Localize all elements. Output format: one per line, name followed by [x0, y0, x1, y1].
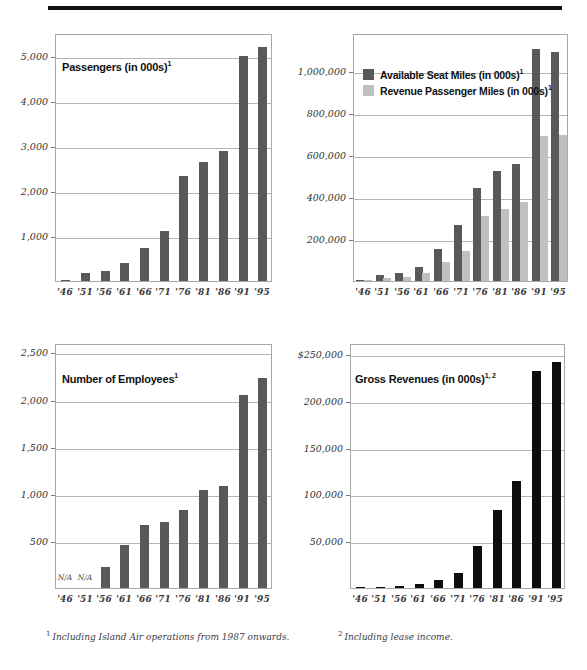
bar-revenue-passenger-miles-in-000s--61 — [422, 273, 430, 281]
y-tick-mark — [349, 240, 353, 241]
y-tick-mark — [51, 401, 55, 402]
bar-71 — [160, 231, 169, 281]
bar-available-seat-miles-in-000s--86 — [512, 164, 520, 281]
bar-91 — [239, 395, 248, 588]
gridline — [351, 356, 564, 357]
bar-95 — [258, 378, 267, 588]
bar-66 — [140, 525, 149, 588]
chart-title-passengers: Passengers (in 000s)1 — [62, 60, 171, 73]
bar-51 — [81, 273, 90, 281]
bar-95 — [552, 362, 561, 588]
bar-76 — [179, 510, 188, 588]
legend-swatch-icon — [363, 85, 374, 96]
chart-panel-gross-revenues: 50,000100,000150,000200,000$250,000'46'5… — [293, 330, 587, 630]
bar-revenue-passenger-miles-in-000s--71 — [462, 251, 470, 281]
y-axis-label: 1,000,000 — [293, 67, 346, 77]
bar-86 — [219, 486, 228, 588]
bar-revenue-passenger-miles-in-000s--51 — [383, 278, 391, 281]
bar-available-seat-miles-in-000s--76 — [473, 188, 481, 281]
chart-panel-employees: 5001,0001,5002,0002,500N/A'46N/A'51'56'6… — [0, 330, 293, 630]
bar-revenue-passenger-miles-in-000s--86 — [520, 202, 528, 281]
y-tick-mark — [51, 542, 55, 543]
gridline — [56, 354, 271, 355]
bar-revenue-passenger-miles-in-000s--81 — [501, 209, 509, 281]
y-tick-mark — [51, 147, 55, 148]
bar-95 — [258, 47, 267, 281]
bar-56 — [395, 586, 404, 588]
bar-61 — [415, 584, 424, 588]
y-axis-label: 400,000 — [293, 193, 346, 203]
footnote-two-marker: 2 — [338, 630, 342, 638]
bar-81 — [199, 490, 208, 588]
y-tick-mark — [51, 353, 55, 354]
footnote-one: 1Including Island Air operations from 19… — [46, 630, 289, 642]
y-tick-mark — [51, 448, 55, 449]
y-tick-mark — [51, 57, 55, 58]
bar-available-seat-miles-in-000s--46 — [356, 280, 364, 281]
bar-revenue-passenger-miles-in-000s--66 — [442, 262, 450, 281]
legend-seat-miles: Available Seat Miles (in 000s)1Revenue P… — [363, 68, 552, 100]
y-tick-mark — [349, 72, 353, 73]
y-axis-label: 2,000 — [0, 396, 48, 406]
chart-title-employees: Number of Employees1 — [62, 372, 178, 385]
y-axis-label: 1,000 — [0, 490, 48, 500]
y-tick-mark — [51, 192, 55, 193]
bar-81 — [199, 162, 208, 281]
bar-51 — [376, 587, 385, 588]
legend-label-text: Revenue Passenger Miles (in 000s) — [380, 85, 548, 97]
chart-panel-passengers: 1,0002,0003,0004,0005,000'46'51'56'61'66… — [0, 20, 293, 330]
chart-panel-seat-miles: 200,000400,000600,000800,0001,000,000'46… — [293, 20, 587, 330]
x-axis-label-95: '95 — [248, 287, 276, 297]
y-axis-label: 800,000 — [293, 109, 346, 119]
bar-91 — [239, 56, 248, 281]
bar-available-seat-miles-in-000s--71 — [454, 225, 462, 281]
bar-46 — [356, 587, 365, 588]
bar-66 — [434, 580, 443, 588]
footnote-two: 2Including lease income. — [338, 630, 453, 642]
legend-item-0: Available Seat Miles (in 000s)1 — [363, 68, 552, 81]
y-axis-label: 5,000 — [0, 52, 48, 62]
chart-title-text: Passengers (in 000s) — [62, 61, 167, 73]
y-axis-label: 600,000 — [293, 151, 346, 161]
na-label-51: N/A — [71, 573, 99, 582]
bar-61 — [120, 545, 129, 588]
bar-61 — [120, 263, 129, 281]
y-tick-mark — [349, 198, 353, 199]
footnote-one-marker: 1 — [46, 630, 50, 638]
footnote-two-text: Including lease income. — [344, 632, 452, 642]
legend-footnote-marker: 1 — [548, 84, 552, 91]
bar-71 — [454, 573, 463, 588]
y-axis-label: 2,500 — [0, 348, 48, 358]
y-axis-label: 500 — [0, 537, 48, 547]
bar-76 — [473, 546, 482, 588]
header-rule — [48, 6, 562, 10]
y-tick-mark — [51, 495, 55, 496]
bar-revenue-passenger-miles-in-000s--76 — [481, 216, 489, 281]
bar-56 — [101, 567, 110, 588]
y-axis-label: 200,000 — [293, 397, 343, 407]
bar-76 — [179, 176, 188, 281]
y-tick-mark — [346, 495, 350, 496]
bar-available-seat-miles-in-000s--95 — [551, 52, 559, 281]
bar-available-seat-miles-in-000s--81 — [493, 171, 501, 281]
y-axis-label: 150,000 — [293, 444, 343, 454]
chart-title-gross-revenues: Gross Revenues (in 000s)1, 2 — [355, 372, 496, 385]
legend-label: Revenue Passenger Miles (in 000s)1 — [380, 84, 552, 97]
y-axis-label: $250,000 — [293, 350, 343, 360]
bar-revenue-passenger-miles-in-000s--95 — [559, 135, 567, 281]
footnote-one-text: Including Island Air operations from 198… — [52, 632, 289, 642]
chart-title-footnote-marker: 1 — [174, 372, 178, 379]
y-axis-label: 50,000 — [293, 537, 343, 547]
bar-46 — [61, 280, 70, 281]
x-axis-label-95: '95 — [541, 594, 569, 604]
bar-revenue-passenger-miles-in-000s--56 — [403, 277, 411, 281]
legend-swatch-icon — [363, 69, 374, 80]
bar-revenue-passenger-miles-in-000s--91 — [540, 136, 548, 281]
y-tick-mark — [349, 114, 353, 115]
bar-81 — [493, 510, 502, 588]
y-tick-mark — [346, 449, 350, 450]
bar-91 — [532, 371, 541, 588]
y-axis-label: 3,000 — [0, 142, 48, 152]
bar-86 — [512, 481, 521, 588]
y-tick-mark — [346, 355, 350, 356]
